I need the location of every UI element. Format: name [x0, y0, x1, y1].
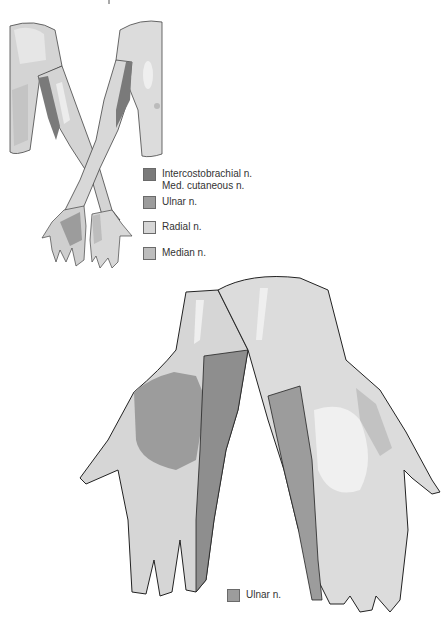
swatch-intercostobrachial	[143, 168, 156, 181]
legend-item-ulnar: Ulnar n.	[143, 196, 197, 209]
swatch-radial	[143, 221, 156, 234]
anatomy-figure	[0, 0, 448, 618]
legend-label: Median n.	[162, 247, 206, 259]
swatch-ulnar	[143, 196, 156, 209]
upper-arms-illustration	[10, 21, 162, 268]
swatch-median	[143, 247, 156, 260]
legend-label: Intercostobrachial n.	[162, 168, 252, 180]
swatch-ulnar	[227, 589, 240, 602]
legend-label: Ulnar n.	[246, 589, 281, 601]
legend-item-ulnar-hands: Ulnar n.	[227, 589, 281, 602]
legend-label: Ulnar n.	[162, 196, 197, 208]
legend-item-radial: Radial n.	[143, 221, 201, 234]
legend-item-intercostobrachial: Intercostobrachial n. Med. cutaneous n.	[143, 168, 252, 192]
lower-hands-illustration	[80, 277, 440, 613]
legend-label: Radial n.	[162, 221, 201, 233]
legend-item-median: Median n.	[143, 247, 206, 260]
legend-label: Med. cutaneous n.	[162, 180, 252, 192]
